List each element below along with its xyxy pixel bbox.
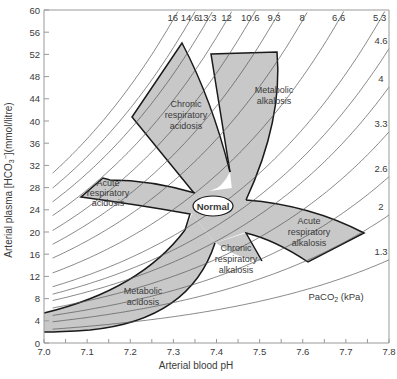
y-axis-title: Arterial plasma [HCO3−](mmol/litre): [2, 102, 15, 257]
normal-label: Normal: [197, 201, 230, 212]
isopleth-label: 1.3: [374, 246, 387, 257]
x-tick-label: 7.5: [253, 346, 266, 357]
label-metabolic-acidosis-1: Metabolic: [124, 286, 163, 296]
paco2-unit-label: PaCO2 (kPa): [308, 291, 363, 303]
label-chronic-resp-alkalosis-3: alkalosis: [219, 265, 254, 275]
label-metabolic-alkalosis-1: Metabolic: [255, 85, 294, 95]
label-chronic-resp-acidosis-2: respiratory: [165, 110, 208, 120]
x-axis: 7.07.17.27.37.47.57.67.77.8: [37, 339, 395, 357]
label-metabolic-alkalosis-2: alkalosis: [257, 96, 292, 106]
y-tick-label: 44: [29, 93, 40, 104]
isopleth-label: 4: [378, 73, 383, 84]
isopleth-label: 8: [299, 12, 304, 23]
label-acute-resp-alkalosis-3: alkalosis: [292, 238, 327, 248]
y-tick-label: 32: [29, 160, 40, 171]
isopleth-label: 9.3: [267, 12, 280, 23]
y-tick-label: 16: [29, 249, 40, 260]
label-acute-resp-acidosis-1: Acute: [96, 178, 119, 188]
isopleth-label: 10.6: [241, 12, 260, 23]
acid-base-nomogram: 1614.613.31210.69.386.65.34.643.32.621.3…: [0, 0, 397, 379]
x-tick-label: 7.8: [382, 346, 395, 357]
label-chronic-resp-alkalosis-1: Chronic: [220, 243, 252, 253]
x-tick-label: 7.2: [124, 346, 137, 357]
y-tick-label: 20: [29, 227, 40, 238]
isopleth-label: 6.6: [332, 12, 345, 23]
label-chronic-resp-acidosis-3: acidosis: [170, 121, 203, 131]
label-metabolic-acidosis-2: acidosis: [127, 297, 160, 307]
normal-region: Normal: [193, 196, 233, 216]
y-tick-label: 36: [29, 138, 40, 149]
y-tick-label: 52: [29, 49, 40, 60]
x-tick-label: 7.7: [339, 346, 352, 357]
y-axis: 04812162024283236404448525660: [29, 5, 49, 349]
y-tick-label: 28: [29, 182, 40, 193]
isopleth-label: 3.3: [374, 118, 387, 129]
label-acute-resp-alkalosis-1: Acute: [297, 216, 320, 226]
y-tick-label: 8: [35, 293, 40, 304]
x-tick-label: 7.6: [296, 346, 309, 357]
y-tick-label: 56: [29, 27, 40, 38]
label-acute-resp-acidosis-3: acidosis: [92, 198, 125, 208]
y-tick-label: 40: [29, 116, 40, 127]
y-tick-label: 24: [29, 204, 40, 215]
label-acute-resp-acidosis-2: respiratory: [87, 188, 130, 198]
isopleth-label: 16: [167, 12, 178, 23]
isopleth-label: 13.3: [198, 12, 217, 23]
x-tick-label: 7.1: [81, 346, 94, 357]
y-tick-label: 48: [29, 71, 40, 82]
x-tick-label: 7.0: [37, 346, 50, 357]
label-chronic-resp-acidosis-1: Chronic: [170, 99, 202, 109]
y-tick-label: 60: [29, 5, 40, 16]
isopleth-label: 14.6: [181, 12, 200, 23]
isopleth-label: 4.6: [374, 35, 387, 46]
isopleth-label: 2.6: [374, 163, 387, 174]
y-tick-label: 12: [29, 271, 40, 282]
isopleth-label: 12: [221, 12, 232, 23]
label-acute-resp-alkalosis-2: respiratory: [288, 227, 331, 237]
x-axis-title: Arterial blood pH: [159, 360, 233, 371]
y-tick-label: 4: [35, 315, 40, 326]
x-tick-label: 7.4: [210, 346, 223, 357]
x-tick-label: 7.3: [167, 346, 180, 357]
isopleth-label: 5.3: [373, 12, 386, 23]
isopleth-label: 2: [378, 201, 383, 212]
label-chronic-resp-alkalosis-2: respiratory: [215, 254, 258, 264]
